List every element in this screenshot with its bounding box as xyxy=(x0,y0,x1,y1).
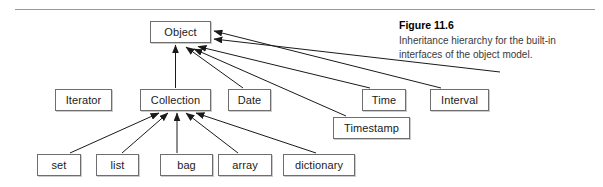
node-label-collection: Collection xyxy=(151,94,200,106)
node-box-iterator: Iterator xyxy=(55,89,112,111)
node-box-dictionary: dictionary xyxy=(283,154,355,176)
node-label-set: set xyxy=(52,159,67,171)
node-label-interval: Interval xyxy=(441,94,478,106)
figure-caption-line-1: Inheritance hierarchy for the built-in xyxy=(399,34,599,48)
node-label-dictionary: dictionary xyxy=(295,159,343,171)
node-label-time: Time xyxy=(372,94,396,106)
node-label-iterator: Iterator xyxy=(66,94,102,106)
node-box-bag: bag xyxy=(160,154,213,176)
node-box-array: array xyxy=(218,154,272,176)
figure-caption-line-2: interfaces of the object model. xyxy=(399,48,599,62)
node-box-set: set xyxy=(37,154,81,176)
node-label-timestamp: Timestamp xyxy=(344,122,399,134)
node-box-object: Object xyxy=(150,21,211,43)
node-box-interval: Interval xyxy=(430,89,489,111)
node-label-object: Object xyxy=(164,26,196,38)
figure-page: ObjectIteratorCollectionDateTimeInterval… xyxy=(0,0,603,187)
node-box-list: list xyxy=(96,154,139,176)
edge-array-collection xyxy=(186,113,238,153)
edge-date-object xyxy=(186,47,243,88)
figure-caption: Figure 11.6 Inheritance hierarchy for th… xyxy=(399,18,599,61)
node-label-array: array xyxy=(232,159,258,171)
node-box-date: Date xyxy=(228,89,271,111)
node-label-bag: bag xyxy=(177,159,196,171)
node-label-list: list xyxy=(111,159,125,171)
caption-top-rule xyxy=(15,9,595,10)
node-box-collection: Collection xyxy=(140,89,211,111)
figure-caption-title: Figure 11.6 xyxy=(399,18,599,32)
edge-time-object xyxy=(198,47,370,89)
node-box-timestamp: Timestamp xyxy=(333,117,410,139)
node-box-time: Time xyxy=(362,89,406,111)
node-label-date: Date xyxy=(238,94,262,106)
edge-dictionary-collection xyxy=(196,113,316,153)
